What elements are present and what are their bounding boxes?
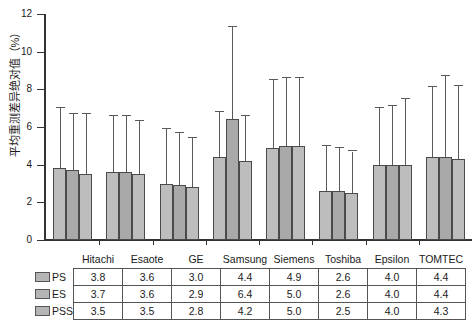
error-bar-line <box>445 76 446 157</box>
data-table: HitachiEsaoteGESamsungSiemensToshibaEpsi… <box>33 250 466 320</box>
error-bar-cap <box>401 98 410 99</box>
bar-group <box>366 14 419 240</box>
table-corner-cell <box>33 250 74 268</box>
y-tick-mark <box>37 52 44 53</box>
bar-hitachi-pss <box>79 174 92 240</box>
error-bar-line <box>326 146 327 191</box>
table-cell: 3.0 <box>172 268 221 285</box>
table-cell: 5.0 <box>270 302 319 319</box>
bar-hitachi-ps <box>53 168 66 240</box>
y-tick-mark <box>37 240 44 241</box>
table-cell: 2.9 <box>172 285 221 302</box>
error-bar-cap <box>122 115 131 116</box>
error-bar-cap <box>454 85 463 86</box>
error-bar-cap <box>228 26 237 27</box>
error-bar-line <box>139 121 140 174</box>
bar-ge-ps <box>160 184 173 241</box>
plot-area <box>46 14 472 240</box>
bar-chart: 平均重测差异绝对值（%） 024681012 <box>0 0 474 248</box>
table-row: ES3.73.62.96.45.02.64.04.4 <box>33 285 466 302</box>
error-bar-line <box>166 129 167 184</box>
table-cell: 3.7 <box>74 285 123 302</box>
error-bar-cap <box>428 86 437 87</box>
x-axis-group-separator <box>419 240 420 245</box>
bar-group <box>259 14 312 240</box>
x-axis-group-separator <box>366 240 367 245</box>
error-bar-line <box>192 138 193 187</box>
y-tick-label: 2 <box>6 196 32 207</box>
bar-esaote-ps <box>106 172 119 240</box>
error-bar-line <box>273 80 274 148</box>
error-bar-line <box>286 78 287 146</box>
table-cell: 4.0 <box>368 285 417 302</box>
y-tick-mark <box>37 127 44 128</box>
bar-tomtec-ps <box>426 157 439 240</box>
table-row: PSS3.53.52.84.25.02.54.04.3 <box>33 302 466 319</box>
table-col-header-esaote: Esaote <box>123 250 172 268</box>
error-bar-cap <box>441 75 450 76</box>
table-col-header-tomtec: TOMTEC <box>417 250 466 268</box>
y-tick-label: 4 <box>6 159 32 170</box>
bar-toshiba-pss <box>345 193 358 240</box>
error-bar-cap <box>348 150 357 151</box>
bar-siemens-es <box>279 146 292 240</box>
x-axis-group-separator <box>259 240 260 245</box>
table-cell: 4.0 <box>368 302 417 319</box>
table-row: PS3.83.63.04.44.92.64.04.4 <box>33 268 466 285</box>
table-cell: 4.4 <box>417 285 466 302</box>
table-cell: 3.6 <box>123 285 172 302</box>
table-cell: 2.8 <box>172 302 221 319</box>
table-cell: 4.9 <box>270 268 319 285</box>
bar-hitachi-es <box>66 170 79 240</box>
table-cell: 3.6 <box>123 268 172 285</box>
bar-esaote-pss <box>132 174 145 240</box>
bar-tomtec-es <box>439 157 452 240</box>
bar-epsilon-ps <box>373 165 386 240</box>
table-col-header-hitachi: Hitachi <box>74 250 123 268</box>
error-bar-line <box>232 27 233 119</box>
table-col-header-epsilon: Epsilon <box>368 250 417 268</box>
bar-ge-pss <box>186 187 199 240</box>
error-bar-line <box>113 116 114 173</box>
table-row-header-pss: PSS <box>33 302 74 319</box>
table-col-header-ge: GE <box>172 250 221 268</box>
bar-toshiba-ps <box>319 191 332 240</box>
bar-samsung-es <box>226 119 239 240</box>
bar-siemens-ps <box>266 148 279 240</box>
legend-label: ES <box>52 288 66 300</box>
error-bar-cap <box>388 105 397 106</box>
error-bar-cap <box>375 107 384 108</box>
table-row-header-es: ES <box>33 285 74 302</box>
bar-ge-es <box>173 185 186 240</box>
table-cell: 3.8 <box>74 268 123 285</box>
bar-samsung-ps <box>213 157 226 240</box>
legend-swatch-icon <box>35 306 50 316</box>
x-axis-group-separator <box>153 240 154 245</box>
table-cell: 4.4 <box>417 268 466 285</box>
x-axis-group-separator <box>312 240 313 245</box>
table-col-header-samsung: Samsung <box>221 250 270 268</box>
error-bar-line <box>299 78 300 146</box>
y-tick-mark <box>37 14 44 15</box>
legend-label: PSS <box>52 305 73 317</box>
error-bar-cap <box>56 107 65 108</box>
bar-group <box>99 14 152 240</box>
error-bar-line <box>126 116 127 173</box>
error-bar-line <box>458 86 459 159</box>
error-bar-cap <box>82 113 91 114</box>
error-bar-cap <box>215 111 224 112</box>
y-tick-label: 12 <box>6 8 32 19</box>
error-bar-cap <box>135 120 144 121</box>
bar-samsung-pss <box>239 161 252 240</box>
y-tick-mark <box>37 165 44 166</box>
error-bar-cap <box>188 137 197 138</box>
bar-group <box>46 14 99 240</box>
legend-label: PS <box>52 271 66 283</box>
error-bar-line <box>339 148 340 191</box>
error-bar-cap <box>282 77 291 78</box>
error-bar-cap <box>269 79 278 80</box>
y-tick-label: 8 <box>6 83 32 94</box>
table-head: HitachiEsaoteGESamsungSiemensToshibaEpsi… <box>33 250 466 268</box>
bar-group <box>419 14 472 240</box>
chart-figure: 平均重测差异绝对值（%） 024681012 HitachiEsaoteGESa… <box>0 0 474 325</box>
